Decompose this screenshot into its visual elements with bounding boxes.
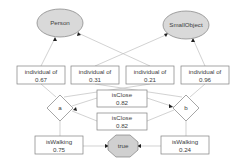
box-value: 0.21 (144, 76, 157, 83)
box-label: isClose (112, 91, 133, 98)
edge-b-individual-of-4 (190, 84, 205, 97)
variable-b-label: b (184, 104, 188, 111)
box-value: 0.24 (179, 146, 192, 153)
individual-of-box-3[interactable]: individual of 0.21 (126, 66, 174, 84)
individual-of-box-1[interactable]: individual of 0.67 (17, 66, 65, 84)
edge-individual-of-1-person (41, 38, 55, 66)
true-node[interactable]: true (108, 135, 138, 157)
isclose-box-2[interactable]: isClose 0.82 (97, 113, 147, 130)
box-label: individual of (134, 68, 167, 75)
box-value: 0.31 (89, 76, 102, 83)
box-value: 0.67 (35, 76, 48, 83)
edge-individual-of-4-smallobject (193, 39, 205, 66)
edge-isclose-2-a (72, 111, 97, 121)
person-label: Person (50, 19, 70, 26)
box-value: 0.75 (53, 146, 66, 153)
box-value: 0.82 (116, 122, 129, 129)
box-label: isWalking (46, 138, 73, 145)
box-label: isClose (112, 114, 133, 121)
class-node-person[interactable]: Person (37, 9, 83, 37)
box-label: individual of (79, 68, 112, 75)
edge-isclose-2-b (147, 110, 174, 121)
class-node-smallobject[interactable]: SmallObject (163, 11, 209, 39)
variable-node-a[interactable]: a (47, 95, 73, 121)
smallobject-label: SmallObject (169, 21, 203, 28)
edge-individual-of-3-person (78, 33, 150, 66)
individual-of-box-4[interactable]: individual of 0.96 (181, 66, 229, 84)
arrowhead-icon (53, 37, 57, 41)
edge-individual-of-2-smallobject (95, 34, 168, 66)
arrowhead-icon (169, 104, 173, 108)
edge-a-individual-of-1 (41, 84, 56, 97)
true-label: true (118, 142, 129, 149)
factor-graph-diagram: Person SmallObject individual of 0.67 in… (0, 0, 241, 166)
box-value: 0.96 (199, 76, 212, 83)
isclose-box-1[interactable]: isClose 0.82 (97, 90, 147, 107)
variable-node-b[interactable]: b (173, 95, 199, 121)
box-label: individual of (25, 68, 58, 75)
iswalking-box-b[interactable]: isWalking 0.24 (161, 136, 209, 154)
iswalking-box-a[interactable]: isWalking 0.75 (35, 136, 83, 154)
variable-a-label: a (58, 104, 62, 111)
arrowhead-icon (73, 107, 77, 111)
box-label: isWalking (172, 138, 199, 145)
box-value: 0.82 (116, 99, 129, 106)
individual-of-box-2[interactable]: individual of 0.31 (71, 66, 119, 84)
edge-isclose-1-a (72, 98, 97, 106)
box-label: individual of (189, 68, 222, 75)
